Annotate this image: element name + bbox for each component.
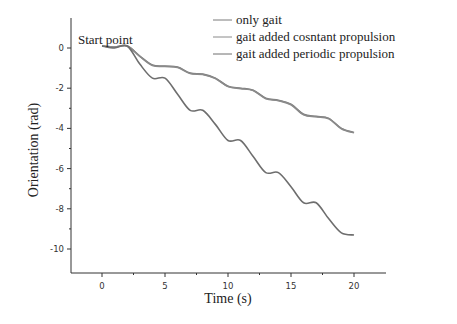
y-tick-label: -2: [56, 83, 64, 93]
x-tick-label: 15: [286, 281, 297, 291]
y-ticks: 0-2-4-6-8-10: [50, 43, 71, 254]
x-ticks: 05101520: [99, 273, 359, 291]
x-tick-label: 0: [99, 281, 104, 291]
y-tick-label: -8: [56, 204, 64, 214]
y-tick-label: -4: [56, 123, 64, 133]
orientation-chart: 05101520 0-2-4-6-8-10 Start point Time (…: [0, 0, 457, 324]
y-tick-label: -6: [56, 164, 64, 174]
legend-label: gait added cosntant propulsion: [236, 29, 396, 44]
x-tick-label: 5: [162, 281, 167, 291]
y-tick-label: -10: [50, 244, 64, 254]
legend-label: gait added periodic propulsion: [236, 46, 395, 61]
legend: only gaitgait added cosntant propulsiong…: [213, 12, 396, 61]
x-tick-label: 20: [349, 281, 360, 291]
y-axis-title: Orientation (rad): [26, 102, 42, 197]
legend-label: only gait: [236, 12, 282, 27]
start-point-annotation: Start point: [78, 32, 133, 47]
y-tick-label: 0: [59, 43, 64, 53]
series-line-2: [102, 45, 354, 235]
x-tick-label: 10: [223, 281, 234, 291]
series-lines: [102, 45, 354, 235]
x-axis-title: Time (s): [204, 291, 252, 307]
